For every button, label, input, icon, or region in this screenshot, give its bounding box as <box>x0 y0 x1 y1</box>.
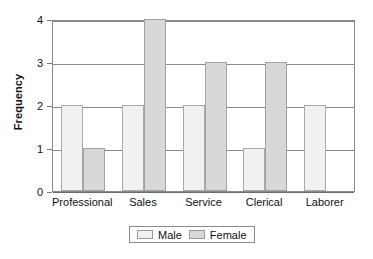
y-axis-tick-label: 4 <box>28 15 43 26</box>
plot-inner <box>53 21 354 191</box>
bar-sales-male <box>122 105 144 191</box>
bar-professional-female <box>83 148 105 191</box>
bar-professional-male <box>61 105 83 191</box>
y-axis-tick-label: 0 <box>28 187 43 198</box>
gridline <box>53 192 354 193</box>
gridline <box>53 21 354 22</box>
legend-swatch-male <box>137 230 153 239</box>
legend-entry-male: Male <box>137 229 182 241</box>
x-axis-label-sales: Sales <box>113 196 174 208</box>
bar-service-male <box>183 105 205 191</box>
x-axis-label-clerical: Clerical <box>234 196 295 208</box>
bar-sales-female <box>144 19 166 191</box>
gridline <box>53 64 354 65</box>
x-axis-label-professional: Professional <box>52 196 113 208</box>
x-axis-label-service: Service <box>173 196 234 208</box>
bar-clerical-female <box>265 62 287 191</box>
bar-clerical-male <box>243 148 265 191</box>
plot-area <box>52 20 355 192</box>
bar-chart: Frequency 01234 ProfessionalSalesService… <box>0 0 373 259</box>
y-axis-title: Frequency <box>12 42 24 162</box>
y-axis-tick-mark <box>47 192 52 193</box>
bar-service-female <box>205 62 227 191</box>
y-axis-tick-label: 1 <box>28 144 43 155</box>
legend-swatch-female <box>189 230 205 239</box>
legend-entry-female: Female <box>189 229 247 241</box>
y-axis-tick-label: 3 <box>28 58 43 69</box>
legend-label-female: Female <box>210 229 247 241</box>
x-axis-label-laborer: Laborer <box>294 196 355 208</box>
bar-laborer-male <box>304 105 326 191</box>
legend-label-male: Male <box>158 229 182 241</box>
chart-legend: Male Female <box>129 226 255 243</box>
y-axis-tick-label: 2 <box>28 101 43 112</box>
